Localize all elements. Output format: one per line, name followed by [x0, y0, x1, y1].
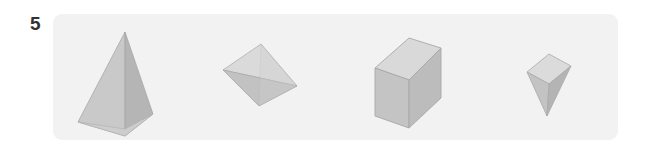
shape-tetrahedron	[221, 40, 311, 122]
tetrahedron-right-face	[259, 44, 297, 106]
shape-square-pyramid	[73, 28, 163, 140]
pyramid-right-face	[125, 32, 153, 136]
pyramid-left-face	[78, 32, 125, 136]
shape-cube	[371, 36, 451, 132]
figure-panel	[53, 14, 618, 140]
figure-question-root: 5	[0, 0, 646, 154]
question-number: 5	[30, 13, 41, 35]
shape-inverted-square-pyramid	[523, 50, 579, 120]
